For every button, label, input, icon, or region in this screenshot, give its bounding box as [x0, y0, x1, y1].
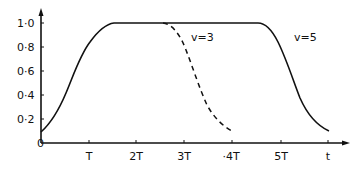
y-tick-label-0.4: 0·4: [17, 89, 35, 102]
chart: 1·0 0·8 0·6 0·4 0·2 0 T 2T 3T ·4T 5T t v…: [0, 0, 357, 170]
origin-label: 0: [37, 137, 44, 150]
curve-rise-plateau: [41, 23, 258, 132]
x-axis-end-label: t: [326, 150, 331, 163]
y-tick-label-0.6: 0·6: [17, 65, 35, 78]
y-tick-label-1.0: 1·0: [17, 17, 35, 30]
y-tick-label-0.2: 0·2: [17, 113, 35, 126]
y-tick-label-0.8: 0·8: [17, 41, 35, 54]
x-tick-label-4T: ·4T: [222, 150, 239, 163]
curve-label-v3: v=3: [191, 31, 214, 44]
x-tick-label-2T: 2T: [129, 150, 143, 163]
x-axis-arrow-icon: [342, 141, 350, 146]
y-axis-arrow-icon: [39, 8, 44, 16]
x-tick-label-T: T: [85, 150, 93, 163]
x-tick-label-3T: 3T: [177, 150, 191, 163]
x-tick-label-5T: 5T: [274, 150, 288, 163]
curve-label-v5: v=5: [294, 31, 317, 44]
